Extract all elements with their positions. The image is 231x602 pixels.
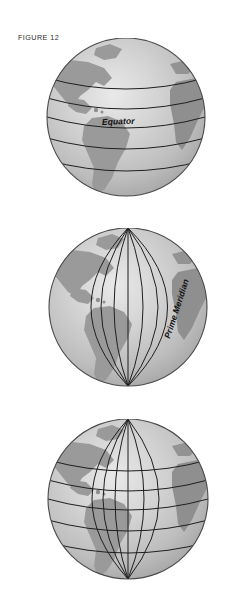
land-antilles-2	[101, 111, 104, 114]
land-antilles	[96, 298, 100, 302]
equator-label: Equator	[102, 116, 135, 127]
globe-longitude-svg	[0, 228, 231, 390]
globe-longitude-lines	[0, 228, 231, 388]
globe-full-grid	[0, 419, 231, 581]
land-antilles-2	[103, 301, 106, 304]
figure-plate: FIGURE 12	[0, 0, 231, 602]
globe-graticule-svg	[0, 419, 231, 583]
land-antilles	[96, 490, 100, 494]
land-antilles	[94, 108, 98, 112]
